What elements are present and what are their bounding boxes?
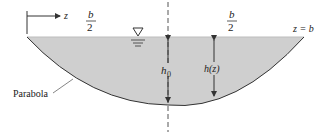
- svg-text:b: b: [229, 8, 235, 20]
- svg-text:2: 2: [87, 21, 93, 33]
- parabola-label: Parabola: [13, 88, 49, 99]
- channel-diagram: z b 2 b 2 z = b h 0: [0, 0, 324, 137]
- svg-text:2: 2: [228, 21, 234, 33]
- half-width-left-label: b 2: [86, 8, 96, 33]
- half-width-right-label: b 2: [227, 8, 237, 33]
- z-axis: [27, 11, 60, 34]
- axis-z-label: z: [63, 10, 68, 21]
- center-depth-subscript: 0: [167, 70, 171, 79]
- right-edge-label: z = b: [292, 23, 314, 34]
- svg-text:b: b: [88, 8, 94, 20]
- parabola-leader-line: [53, 79, 73, 93]
- local-depth-label: h(z): [204, 63, 220, 75]
